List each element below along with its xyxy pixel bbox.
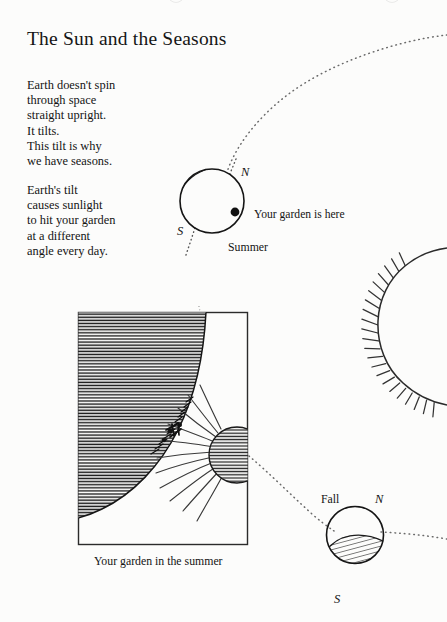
- illustration-page: The Sun and the Seasons Earth doesn't sp…: [0, 0, 447, 622]
- garden-callout-label: Your garden is here: [254, 208, 345, 221]
- body-paragraph-1: Earth doesn't spin through space straigh…: [27, 78, 115, 169]
- fall-season-label: Fall: [321, 492, 339, 507]
- summer-earth-outline: [180, 169, 244, 233]
- summer-season-label: Summer: [228, 240, 268, 255]
- top-edge-artifact: [170, 0, 398, 3]
- fall-earth-south-label: S: [334, 592, 340, 607]
- summer-earth-north-label: N: [241, 165, 249, 180]
- panel-axis-tick: [199, 306, 200, 312]
- fall-earth-north-label: N: [375, 492, 383, 507]
- fall-earth: [322, 507, 390, 577]
- garden-panel-caption: Your garden in the summer: [94, 554, 223, 569]
- body-paragraph-2: Earth's tilt causes sunlight to hit your…: [27, 183, 115, 259]
- fall-earth-night-hatch: [322, 535, 390, 576]
- sun: [362, 248, 447, 417]
- garden-location-dot: [231, 208, 240, 217]
- panel-sun: [209, 427, 265, 483]
- garden-panel: [78, 306, 265, 545]
- orbit-path-lower-right: [381, 532, 447, 539]
- orbit-path-upper: [227, 35, 447, 172]
- summer-earth-south-label: S: [177, 224, 183, 239]
- page-title: The Sun and the Seasons: [27, 28, 227, 50]
